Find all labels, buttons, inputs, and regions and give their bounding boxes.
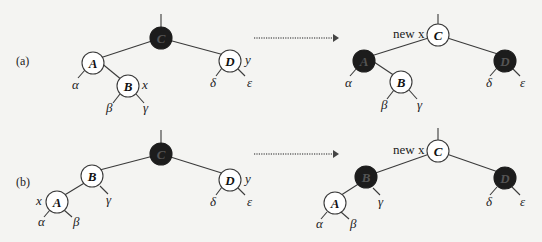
case-a-before: (a) C A B x D y α β γ δ ε	[16, 14, 253, 115]
subtree-delta: δ	[210, 75, 217, 90]
x-pointer-label: x	[35, 193, 42, 208]
node-C-label: C	[157, 147, 166, 162]
subtree-beta: β	[72, 214, 80, 229]
subtree-delta: δ	[210, 194, 217, 209]
subtree-epsilon: ε	[520, 194, 526, 209]
node-D-label: D	[224, 173, 235, 188]
subtree-delta: δ	[486, 194, 493, 209]
node-D-label: D	[499, 171, 510, 186]
node-B-label: B	[123, 79, 133, 94]
y-pointer-label: y	[243, 52, 251, 67]
subtree-alpha: α	[316, 216, 324, 231]
node-B-label: B	[396, 75, 406, 90]
subtree-epsilon: ε	[520, 75, 526, 90]
case-b-after: C new x B A D α β γ δ ε	[316, 128, 526, 231]
case-b-label: (b)	[16, 175, 30, 189]
subtree-gamma: γ	[378, 194, 384, 209]
rb-tree-fixup-diagram: (a) C A B x D y α β γ δ ε	[0, 0, 542, 242]
subtree-alpha: α	[72, 77, 80, 92]
y-pointer-label: y	[243, 171, 251, 186]
node-D-label: D	[499, 54, 510, 69]
subtree-delta: δ	[486, 75, 493, 90]
subtree-beta: β	[105, 100, 113, 115]
node-C-label: C	[434, 28, 443, 43]
node-C-label: C	[157, 31, 166, 46]
new-x-pointer-label: new x	[393, 142, 425, 157]
new-x-pointer-label: new x	[393, 26, 425, 41]
node-A-label: A	[52, 195, 62, 210]
subtree-beta: β	[380, 97, 388, 112]
node-A-label: A	[359, 54, 369, 69]
x-pointer-label: x	[141, 77, 148, 92]
case-a-label: (a)	[16, 54, 29, 68]
subtree-gamma: γ	[143, 100, 149, 115]
subtree-epsilon: ε	[247, 194, 253, 209]
subtree-epsilon: ε	[247, 75, 253, 90]
node-A-label: A	[330, 196, 340, 211]
transform-arrow-a	[254, 34, 339, 42]
node-C-label: C	[434, 144, 443, 159]
node-A-label: A	[88, 56, 98, 71]
subtree-alpha: α	[38, 214, 46, 229]
transform-arrow-b	[254, 150, 339, 158]
node-D-label: D	[224, 54, 235, 69]
case-b-before: (b) C B A x D y α β γ δ ε	[16, 130, 253, 229]
subtree-beta: β	[349, 216, 357, 231]
subtree-gamma: γ	[417, 97, 423, 112]
case-a-after: C new x A B D α β γ δ ε	[345, 14, 526, 112]
subtree-gamma: γ	[106, 192, 112, 207]
node-B-label: B	[361, 170, 371, 185]
subtree-alpha: α	[345, 75, 353, 90]
node-B-label: B	[87, 169, 97, 184]
